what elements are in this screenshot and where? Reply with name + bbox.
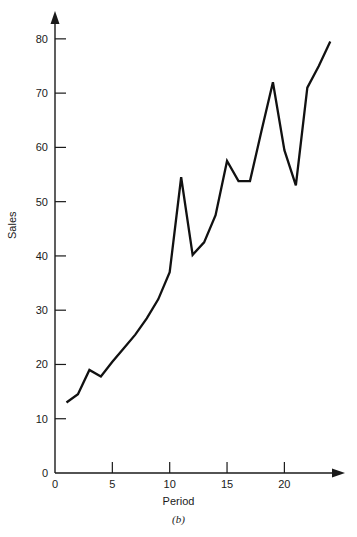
y-axis-ticks: 01020304050607080 [36, 33, 66, 479]
data-series-line [66, 42, 330, 403]
y-axis-arrowhead [51, 11, 60, 24]
y-tick-label: 50 [36, 196, 48, 208]
x-axis-ticks: 05101520 [52, 462, 291, 490]
x-tick-label: 5 [109, 478, 115, 490]
y-tick-label: 30 [36, 304, 48, 316]
data-series-group [66, 42, 330, 403]
y-tick-label: 60 [36, 141, 48, 153]
y-tick-label: 80 [36, 33, 48, 45]
x-tick-label: 10 [164, 478, 176, 490]
x-tick-label: 20 [278, 478, 290, 490]
panel-caption: (b) [0, 513, 357, 525]
axes [51, 11, 346, 478]
figure-panel-b: 01020304050607080 05101520 Sales Period … [0, 0, 357, 537]
y-tick-label: 0 [42, 467, 48, 479]
y-tick-label: 40 [36, 250, 48, 262]
y-tick-label: 70 [36, 87, 48, 99]
x-tick-label: 0 [52, 478, 58, 490]
x-tick-label: 15 [221, 478, 233, 490]
y-axis-title: Sales [6, 211, 18, 239]
y-tick-label: 10 [36, 413, 48, 425]
line-chart: 01020304050607080 05101520 [0, 0, 357, 537]
y-tick-label: 20 [36, 358, 48, 370]
x-axis-arrowhead [332, 469, 345, 478]
x-axis-title: Period [0, 495, 357, 507]
